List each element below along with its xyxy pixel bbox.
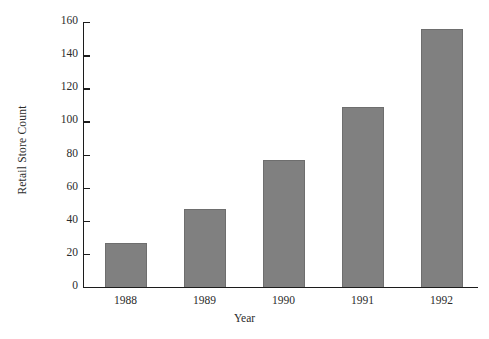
bar <box>421 29 463 287</box>
bar <box>263 160 305 287</box>
x-axis-title: Year <box>0 312 489 324</box>
bar <box>105 243 147 287</box>
plot-area: 020406080100120140160 198819891990199119… <box>83 22 478 288</box>
x-axis-title-label: Year <box>234 312 255 324</box>
y-tick-label: 0 <box>72 279 78 291</box>
bar <box>342 107 384 287</box>
y-tick-label: 60 <box>67 180 79 192</box>
x-axis-line <box>83 287 478 288</box>
y-tick-label: 80 <box>67 147 79 159</box>
y-tick-mark <box>84 22 90 23</box>
x-tick-label: 1992 <box>402 294 482 306</box>
y-axis-title: Retail Store Count <box>12 80 32 220</box>
x-tick-label: 1988 <box>86 294 166 306</box>
y-tick-mark <box>84 55 90 56</box>
y-tick-label: 40 <box>67 213 79 225</box>
y-tick-label: 120 <box>61 80 78 92</box>
y-tick-mark <box>84 287 90 288</box>
y-tick-mark <box>84 121 90 122</box>
y-tick-mark <box>84 155 90 156</box>
y-tick-label: 160 <box>61 14 78 26</box>
y-tick-label: 100 <box>61 113 78 125</box>
y-tick-mark <box>84 221 90 222</box>
y-tick-mark <box>84 88 90 89</box>
y-tick-label: 20 <box>67 246 79 258</box>
x-tick-label: 1990 <box>244 294 324 306</box>
y-tick-mark <box>84 254 90 255</box>
y-tick-label: 140 <box>61 47 78 59</box>
bar-chart: Retail Store Count 020406080100120140160… <box>0 0 489 339</box>
y-axis-title-label: Retail Store Count <box>16 105 28 194</box>
x-tick-label: 1991 <box>323 294 403 306</box>
x-tick-label: 1989 <box>165 294 245 306</box>
y-tick-mark <box>84 188 90 189</box>
bar <box>184 209 226 287</box>
